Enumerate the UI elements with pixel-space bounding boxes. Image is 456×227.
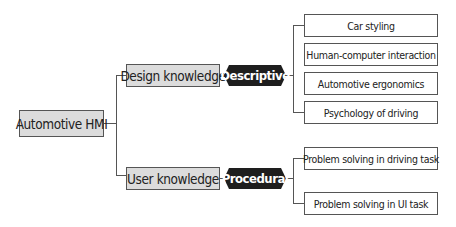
leaf-problem-solving-ui-task: Problem solving in UI task — [304, 192, 438, 215]
leaf-label: Problem solving in UI task — [314, 198, 429, 210]
leaf-label: Human-computer interaction — [306, 49, 435, 61]
leaf-psychology-of-driving: Psychology of driving — [304, 101, 438, 124]
connector-leaf-6 — [293, 203, 304, 204]
tag-procedural: Procedural — [224, 168, 286, 189]
branch-label: Design knowledge — [120, 68, 225, 84]
tag-label: Procedural — [222, 171, 289, 186]
connector-root-vertical — [116, 75, 117, 176]
root-node: Automotive HMI — [19, 110, 104, 137]
branch-node-user-knowledge: User knowledge — [126, 167, 220, 190]
leaf-label: Car styling — [347, 20, 394, 32]
tag-label: Descriptive — [220, 68, 289, 83]
tag-descriptive: Descriptive — [224, 65, 286, 86]
connector-leaf-4 — [293, 112, 304, 113]
leaf-automotive-ergonomics: Automotive ergonomics — [304, 72, 438, 95]
leaf-car-styling: Car styling — [304, 14, 438, 37]
branch-label: User knowledge — [127, 171, 219, 187]
branch-node-design-knowledge: Design knowledge — [126, 64, 220, 87]
leaf-label: Psychology of driving — [324, 107, 418, 119]
leaf-human-computer-interaction: Human-computer interaction — [304, 43, 438, 66]
leaf-label: Problem solving in driving task — [303, 153, 439, 165]
connector-to-user — [116, 175, 126, 176]
root-node-label: Automotive HMI — [16, 116, 108, 132]
leaf-label: Automotive ergonomics — [318, 78, 424, 90]
connector-leaf-1 — [293, 25, 304, 26]
leaf-problem-solving-driving-task: Problem solving in driving task — [304, 147, 438, 170]
connector-procedural-vertical — [293, 158, 294, 204]
connector-descriptive-vertical — [293, 25, 294, 113]
